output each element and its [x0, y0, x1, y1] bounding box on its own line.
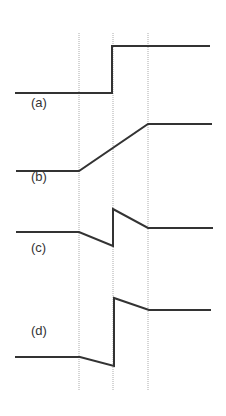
signal-label-b: (b) — [31, 169, 47, 184]
signal-b — [16, 124, 212, 171]
signal-label-c: (c) — [31, 240, 46, 255]
signal-label-d: (d) — [31, 323, 47, 338]
signal-a — [15, 46, 210, 93]
signals — [15, 46, 213, 366]
waveform-diagram — [0, 0, 226, 416]
signal-label-a: (a) — [31, 95, 47, 110]
